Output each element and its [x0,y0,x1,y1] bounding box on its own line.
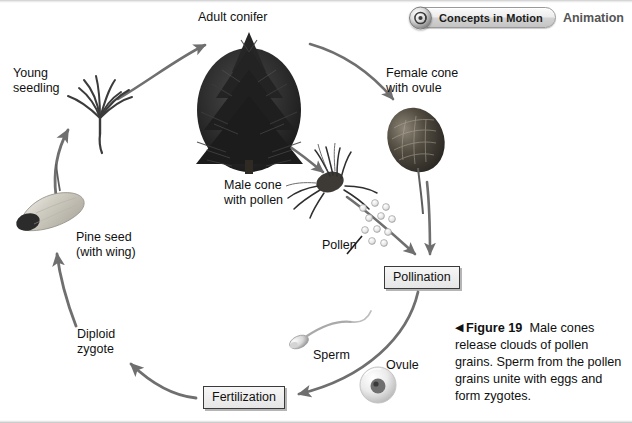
arrow-pollen-to-pollination [347,197,415,254]
young-seedling-drawing [68,76,132,153]
label-pine-seed-with-wing: Pine seed (with wing) [76,230,136,260]
caption-pointer-triangle: ◀ [455,320,463,335]
label-pollen: Pollen [322,238,357,253]
motion-circle-icon [409,6,432,29]
arrow-seed-to-seedling [55,130,68,196]
figure-caption: ◀Figure 19 Male cones release clouds of … [455,320,627,404]
arrow-pollination-to-fertilization [299,292,418,394]
adult-conifer-photo [196,32,303,174]
arrow-fertilization-to-zygote [131,364,196,398]
concepts-in-motion-label: Concepts in Motion [439,12,543,24]
label-young-seedling: Young seedling [13,66,60,96]
process-box-fertilization: Fertilization [203,386,285,409]
figure-number: Figure 19 [466,321,522,335]
process-box-pollination: Pollination [384,266,460,289]
label-male-cone-with-pollen: Male cone with pollen [224,178,283,208]
figure-page: Adult conifer Young seedling Female cone… [0,0,632,423]
animation-link[interactable]: Animation [563,11,624,25]
arrow-female-cone-to-pollination [427,182,430,254]
pine-seed-drawing [14,164,84,233]
label-diploid-zygote: Diploid zygote [77,327,115,357]
label-female-cone-with-ovule: Female cone with ovule [386,66,458,96]
arrow-seedling-to-adult [118,45,205,99]
female-cone-photo [378,99,455,214]
pollen-grain-cloud [360,200,396,247]
label-sperm: Sperm [313,348,350,363]
concepts-in-motion-pill[interactable]: Concepts in Motion [412,7,556,28]
label-adult-conifer: Adult conifer [198,10,267,25]
sperm-drawing [287,311,371,352]
arrow-adult-to-female-cone [310,44,393,99]
arrow-zygote-to-seed [57,254,76,326]
concepts-in-motion-badge[interactable]: Concepts in Motion Animation [412,7,624,28]
label-ovule: Ovule [386,358,419,373]
